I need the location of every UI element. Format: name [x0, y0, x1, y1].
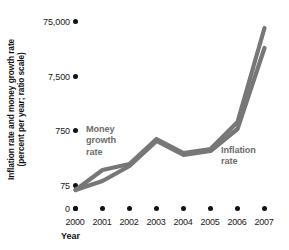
annotation-inflation-rate-line2: rate: [221, 156, 256, 167]
annotation-money-growth-rate-line1: Money: [86, 124, 116, 135]
annotation-inflation-rate-line1: Inflation: [221, 145, 256, 156]
annotation-money-growth-rate-line2: growth: [86, 135, 116, 146]
annotation-money-growth-rate-line3: rate: [86, 147, 116, 158]
chart-container: Inflation rate and money growth rate (pe…: [0, 0, 289, 250]
plot-area: [0, 0, 289, 250]
annotation-inflation-rate: Inflation rate: [221, 145, 256, 168]
annotation-money-growth-rate: Money growth rate: [86, 124, 116, 158]
